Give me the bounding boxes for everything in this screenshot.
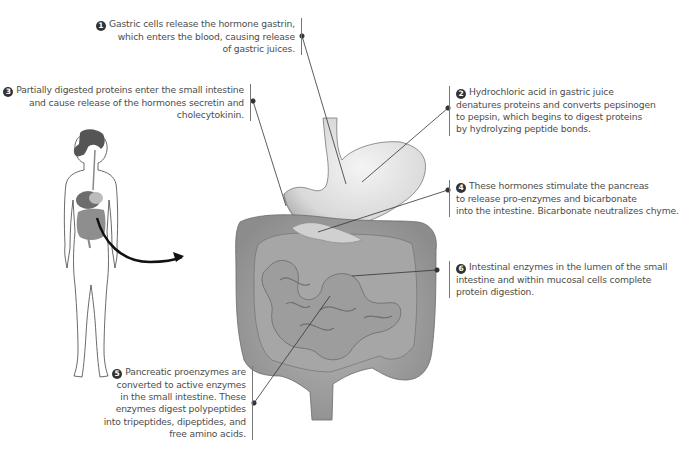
annotation-6-intestinal-enzymes: 6Intestinal enzymes in the lumen of the … [449,261,667,298]
zoom-arrow [97,218,184,262]
step-number-badge: 4 [456,183,466,193]
stomach [284,118,426,228]
body-digestive-tract [76,150,106,248]
human-body-figure [64,135,117,377]
annotation-5-pancreatic-proenzymes: 5Pancreatic proenzymes are converted to … [104,366,253,440]
annotation-2-hydrochloric-acid: 2Hydrochloric acid in gastric juice dena… [449,86,656,136]
annotation-1-gastrin: 1Gastric cells release the hormone gastr… [96,18,302,55]
step-number-badge: 5 [112,369,122,379]
step-number-badge: 1 [96,21,106,31]
annotation-3-secretin-cck: 3Partially digested proteins enter the s… [3,84,251,121]
step-number-badge: 2 [456,89,466,99]
step-number-badge: 6 [456,264,466,274]
head-hair [74,129,105,156]
step-number-badge: 3 [3,87,13,97]
annotation-4-pancreas-hormones: 4These hormones stimulate the pancreas t… [449,180,679,217]
